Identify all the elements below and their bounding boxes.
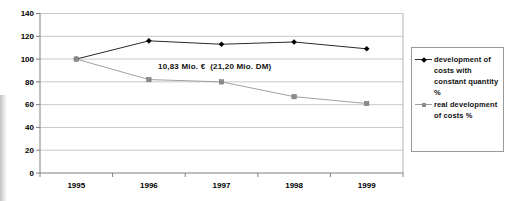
- data-point-square: [74, 57, 78, 61]
- y-axis-label: 60: [25, 100, 34, 109]
- data-point-square: [219, 80, 223, 84]
- chart-legend: development of costs with constant quant…: [411, 47, 504, 152]
- y-axis-label: 80: [25, 78, 34, 87]
- data-point-diamond: [291, 39, 297, 45]
- data-point-diamond: [364, 46, 370, 52]
- square-marker-icon: [415, 99, 434, 110]
- legend-item-label: development of costs with constant quant…: [434, 54, 498, 98]
- legend-item-constant-quantity-costs: development of costs with constant quant…: [415, 54, 500, 98]
- diamond-marker-icon: [415, 54, 434, 65]
- data-point-square: [365, 101, 369, 105]
- x-axis-label: 1998: [285, 181, 303, 190]
- y-axis-label: 20: [25, 146, 34, 155]
- data-point-square: [147, 77, 151, 81]
- y-axis-label: 0: [30, 169, 35, 178]
- annotation-label: 10,83 Mio. € (21,20 Mio. DM): [158, 62, 271, 71]
- x-axis-label: 1995: [67, 181, 85, 190]
- x-axis-label: 1997: [213, 181, 231, 190]
- data-point-diamond: [146, 38, 152, 44]
- y-axis-label: 120: [21, 32, 35, 41]
- y-axis-label: 40: [25, 123, 34, 132]
- legend-item-real-cost-development: real development of costs %: [415, 99, 500, 121]
- x-axis-label: 1999: [358, 181, 376, 190]
- legend-item-label: real development of costs %: [434, 99, 497, 121]
- data-point-diamond: [219, 41, 225, 47]
- data-point-square: [292, 94, 296, 98]
- y-axis-label: 140: [21, 9, 35, 18]
- y-axis-label: 100: [21, 55, 35, 64]
- x-axis-label: 1996: [140, 181, 158, 190]
- cost-development-chart: 02040608010012014019951996199719981999 1…: [0, 0, 523, 201]
